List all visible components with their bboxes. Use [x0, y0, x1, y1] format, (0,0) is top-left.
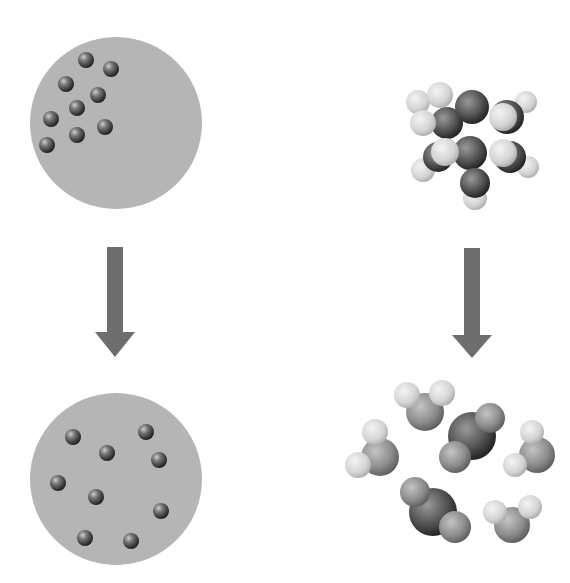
particle-sphere-icon	[58, 76, 74, 92]
hydrogen-atom-icon	[427, 82, 453, 108]
particle-sphere-icon	[138, 424, 154, 440]
oxygen-atom-icon	[475, 403, 505, 433]
carbon-atom-icon	[460, 168, 490, 198]
hydrogen-atom-icon	[483, 500, 507, 524]
oxygen-atom-icon	[439, 441, 471, 473]
particle-sphere-icon	[103, 61, 119, 77]
particle-sphere-icon	[77, 530, 93, 546]
hydrogen-atom-icon	[431, 138, 459, 166]
diagram-canvas	[0, 0, 570, 583]
particle-sphere-icon	[43, 111, 59, 127]
hydrogen-atom-icon	[489, 139, 517, 167]
particle-sphere-icon	[69, 100, 85, 116]
water-1-molecule	[394, 380, 455, 431]
particle-sphere-icon	[78, 52, 94, 68]
right-down-arrow-icon	[452, 248, 492, 358]
hydrogen-atom-icon	[394, 382, 420, 408]
oxygen-atom-icon	[439, 511, 471, 543]
hydrogen-atom-icon	[520, 420, 544, 444]
dispersed-particles-panel	[30, 393, 202, 565]
hydrogen-atom-icon	[410, 110, 436, 136]
particle-sphere-icon	[151, 452, 167, 468]
carbon-dioxide-1-molecule	[439, 403, 505, 473]
oxygen-atom-icon	[400, 477, 430, 507]
diagram-svg	[0, 0, 570, 583]
particle-sphere-icon	[69, 127, 85, 143]
particle-sphere-icon	[88, 489, 104, 505]
particle-sphere-icon	[97, 119, 113, 135]
carbon-dioxide-2-molecule	[400, 477, 471, 543]
particle-sphere-icon	[90, 87, 106, 103]
clustered-particles-panel	[30, 37, 202, 209]
water-4-molecule	[483, 495, 542, 543]
water-2-molecule	[345, 419, 399, 478]
hydrogen-atom-icon	[406, 90, 430, 114]
hydrogen-atom-icon	[489, 103, 517, 131]
particle-sphere-icon	[39, 137, 55, 153]
reactant-molecule-panel	[406, 82, 539, 210]
particle-sphere-icon	[99, 445, 115, 461]
particle-sphere-icon	[123, 533, 139, 549]
carbon-atom-icon	[455, 90, 489, 124]
left-down-arrow-icon	[95, 247, 135, 357]
water-3-molecule	[503, 420, 555, 477]
transition-arrows	[95, 247, 492, 358]
particle-sphere-icon	[153, 503, 169, 519]
hydrogen-atom-icon	[429, 380, 455, 406]
particle-sphere-icon	[50, 475, 66, 491]
hydrogen-atom-icon	[345, 452, 371, 478]
particle-sphere-icon	[65, 429, 81, 445]
hydrogen-atom-icon	[518, 495, 542, 519]
product-molecules-panel	[345, 380, 555, 543]
hydrogen-atom-icon	[362, 419, 388, 445]
hydrogen-atom-icon	[503, 453, 527, 477]
